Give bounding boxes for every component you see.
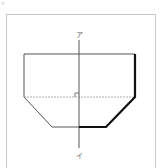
shape-outline-bold (79, 54, 135, 127)
axis-label-top: ア (76, 31, 83, 39)
right-angle-icon (75, 93, 79, 97)
geometry-figure: ア イ (0, 0, 165, 168)
axis-label-bottom: イ (76, 152, 83, 160)
